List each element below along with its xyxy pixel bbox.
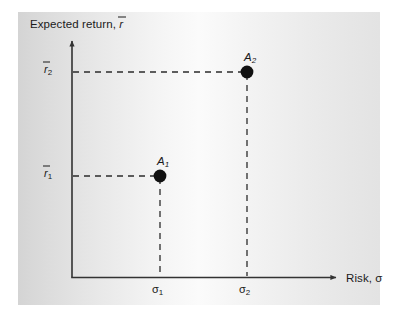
data-point-label-a1: A1 bbox=[157, 155, 169, 167]
tick-s2-base: σ bbox=[239, 283, 246, 295]
label-a1-subscript: 1 bbox=[165, 160, 169, 169]
x-axis-title: Risk, σ bbox=[346, 272, 383, 284]
x-tick-label-sigma2: σ2 bbox=[239, 283, 250, 295]
overbar-icon bbox=[118, 15, 127, 24]
y-axis-title: Expected return, r bbox=[30, 18, 123, 30]
x-axis-title-symbol: σ bbox=[375, 272, 382, 284]
x-axis-title-text: Risk, bbox=[346, 272, 375, 284]
plot-panel-background bbox=[18, 12, 380, 305]
r-bar-symbol: r bbox=[119, 18, 123, 30]
tick-s1-subscript: 1 bbox=[159, 288, 163, 297]
label-a2-base: A bbox=[244, 51, 252, 63]
tick-s2-subscript: 2 bbox=[246, 288, 250, 297]
x-tick-label-sigma1: σ1 bbox=[152, 283, 163, 295]
figure-root: Expected return, r Risk, σ r2 r1 σ1 σ2 A… bbox=[0, 0, 396, 322]
tick-r1-subscript: 1 bbox=[48, 172, 52, 181]
label-a1-base: A bbox=[157, 155, 165, 167]
data-point-label-a2: A2 bbox=[244, 51, 256, 63]
y-tick-label-r2: r2 bbox=[44, 63, 52, 75]
label-a2-subscript: 2 bbox=[252, 56, 256, 65]
y-tick-label-r1: r1 bbox=[44, 167, 52, 179]
tick-s1-base: σ bbox=[152, 283, 159, 295]
y-axis-title-text: Expected return, bbox=[30, 18, 119, 30]
tick-r2-subscript: 2 bbox=[48, 68, 52, 77]
